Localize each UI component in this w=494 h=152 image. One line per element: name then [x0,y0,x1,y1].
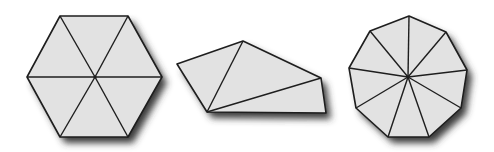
nonagon-center-point [406,75,409,78]
pentagon-irregular-outline [177,41,326,113]
shapes-layer [27,16,467,137]
pentagon-irregular [177,41,326,113]
nonagon-divider [408,16,409,77]
diagram-canvas [0,0,494,152]
hexagon-center-point [93,75,96,78]
